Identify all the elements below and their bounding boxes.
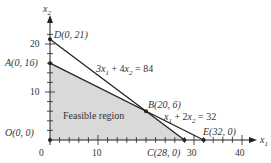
point-C-dot [182,138,186,142]
point-E-dot [202,138,206,142]
point-E-label: E(32, 0) [202,126,236,138]
lp-feasible-region-chart: x2 x1 0 10 30 40 10 20 D(0, 21) A(0, 16)… [0,0,271,163]
point-B-label: B(20, 6) [148,99,181,111]
tick-label-x-0: 0 [39,148,44,158]
x-axis-label: x1 [259,134,268,148]
tick-label-y-20: 20 [30,39,40,49]
y-axis-label: x2 [42,3,51,17]
tick-label-x-10: 10 [92,148,102,158]
point-D-label: D(0, 21) [53,29,89,41]
point-A-dot [48,61,52,65]
equation-label-line1: 3x1 + 4x2 = 84 [95,63,153,77]
feasible-region-label: Feasible region [63,110,124,121]
point-O-dot [48,138,52,142]
point-C-label: C(28, 0) [147,147,181,159]
point-D-dot [48,37,52,41]
tick-label-y-10: 10 [30,87,40,97]
point-O-label: O(0, 0) [5,127,35,139]
x-axis-arrow-icon [249,137,257,143]
equation-label-line2: x1 + 2x2 = 32 [163,111,216,125]
tick-label-x-40: 40 [235,148,245,158]
tick-label-x-30: 30 [187,148,197,158]
point-A-label: A(0, 16) [4,57,38,69]
